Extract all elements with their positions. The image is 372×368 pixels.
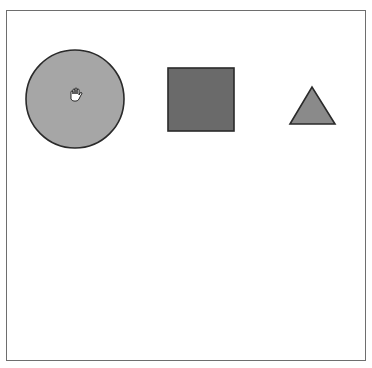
triangle-shape[interactable] [290, 87, 335, 124]
square-shape[interactable] [168, 68, 234, 131]
shapes-layer [0, 0, 372, 368]
